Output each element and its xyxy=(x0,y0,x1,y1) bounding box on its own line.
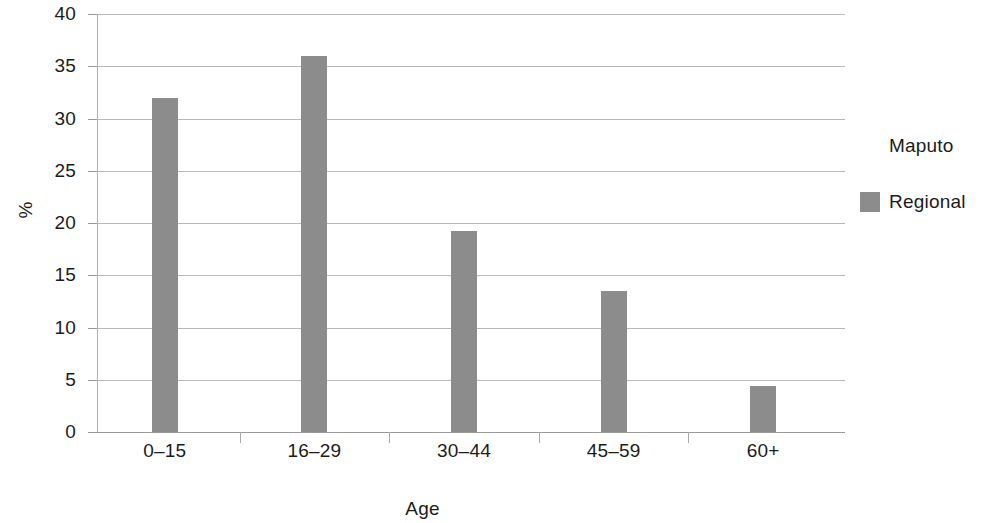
y-axis-tick-label: 25 xyxy=(30,161,76,180)
bar xyxy=(451,231,477,432)
y-axis-tick xyxy=(88,14,97,15)
y-axis-tick-label: 0 xyxy=(30,422,76,441)
x-axis-tick-label: 30–44 xyxy=(394,440,534,462)
y-axis-tick-label: 40 xyxy=(30,4,76,23)
y-axis-tick-label: 20 xyxy=(30,213,76,232)
y-axis-tick-label: 5 xyxy=(30,370,76,389)
y-axis-tick-label: 10 xyxy=(30,318,76,337)
y-axis-tick-label: 30 xyxy=(30,109,76,128)
x-axis-tick-label: 45–59 xyxy=(544,440,684,462)
x-axis-tick xyxy=(688,432,689,443)
legend-label: Regional xyxy=(889,192,966,212)
y-axis-tick xyxy=(88,119,97,120)
x-axis-tick-label: 0–15 xyxy=(95,440,235,462)
chart-legend: MaputoRegional xyxy=(860,132,1007,244)
x-axis-tick-label: 60+ xyxy=(693,440,833,462)
plot-area xyxy=(97,14,845,432)
x-axis-tick xyxy=(539,432,540,443)
bar xyxy=(301,56,327,432)
y-axis-tick-label: 35 xyxy=(30,56,76,75)
y-axis-tick xyxy=(88,432,97,433)
y-axis-tick xyxy=(88,223,97,224)
gridline xyxy=(97,432,845,433)
y-axis-tick xyxy=(88,328,97,329)
y-axis-tick xyxy=(88,275,97,276)
y-axis-tick xyxy=(88,66,97,67)
y-axis-title: % xyxy=(16,190,36,230)
x-axis-tick xyxy=(389,432,390,443)
x-axis-title: Age xyxy=(0,498,845,520)
legend-item: Maputo xyxy=(860,132,1007,160)
x-axis-tick xyxy=(240,432,241,443)
bar xyxy=(152,98,178,432)
bar xyxy=(601,291,627,432)
y-axis-tick xyxy=(88,171,97,172)
legend-label: Maputo xyxy=(889,136,954,156)
bar-chart-figure: 0510152025303540 0–1516–2930–4445–5960+ … xyxy=(0,0,1007,523)
legend-swatch xyxy=(860,192,880,212)
y-axis-tick xyxy=(88,380,97,381)
legend-swatch xyxy=(860,136,880,156)
bar xyxy=(750,386,776,432)
y-axis-tick-label: 15 xyxy=(30,265,76,284)
legend-item: Regional xyxy=(860,188,1007,216)
x-axis-tick-label: 16–29 xyxy=(244,440,384,462)
